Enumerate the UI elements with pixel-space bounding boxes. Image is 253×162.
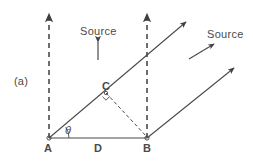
figure-panel-a: (a) Source Source A B C D θ (0, 0, 253, 162)
source-label-top: Source (80, 26, 117, 37)
angle-label-theta: θ (65, 125, 71, 136)
diagram-canvas (0, 0, 253, 162)
baseline-label-d: D (94, 143, 102, 154)
panel-label: (a) (14, 76, 28, 87)
source-label-right: Source (207, 29, 244, 40)
point-label-c: C (102, 81, 110, 92)
ray-from-a (49, 22, 186, 138)
source-direction-arrow-right (189, 44, 214, 59)
right-angle-marker-c (102, 96, 109, 100)
ray-from-b (147, 68, 234, 138)
point-label-a: A (44, 143, 52, 154)
point-label-b: B (143, 143, 151, 154)
perpendicular-dashed-cb (106, 93, 147, 137)
